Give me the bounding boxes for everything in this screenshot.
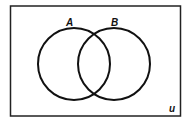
venn-diagram: A B u — [0, 0, 187, 122]
universe-label: u — [169, 103, 175, 114]
set-a-label: A — [65, 17, 73, 28]
universe-rectangle — [11, 6, 181, 116]
set-b-label: B — [111, 17, 118, 28]
